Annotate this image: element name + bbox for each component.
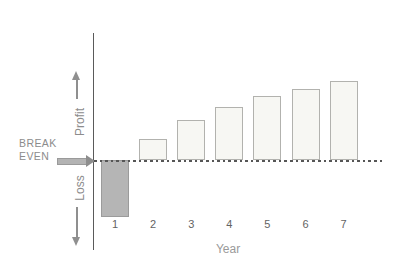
up-arrow-icon [72, 71, 80, 80]
profit-bar-year-3 [177, 120, 205, 160]
x-tick-label-6: 6 [292, 218, 320, 230]
break-even-dashed-line [94, 160, 385, 162]
break-even-chart: BREAK EVEN Profit Loss 1234567 Year [0, 0, 397, 274]
y-axis-line [93, 33, 94, 250]
profit-bar-year-7 [330, 81, 358, 160]
profit-bar-year-4 [215, 107, 243, 160]
loss-axis-label: Loss [73, 166, 87, 210]
x-tick-label-2: 2 [139, 218, 167, 230]
x-tick-label-3: 3 [177, 218, 205, 230]
x-tick-label-7: 7 [330, 218, 358, 230]
profit-axis-label: Profit [73, 100, 87, 144]
profit-bar-year-6 [292, 89, 320, 160]
x-axis-title: Year [206, 242, 250, 256]
x-tick-label-4: 4 [215, 218, 243, 230]
profit-bar-year-2 [139, 139, 167, 160]
x-tick-label-1: 1 [101, 218, 129, 230]
break-even-label-line1: BREAK [19, 137, 65, 150]
break-even-arrow-shaft [57, 158, 88, 165]
x-tick-label-5: 5 [253, 218, 281, 230]
profit-arrow-shaft [76, 80, 78, 99]
loss-arrow-shaft [76, 207, 78, 237]
down-arrow-icon [72, 237, 80, 246]
profit-bar-year-5 [253, 96, 281, 160]
loss-bar-year-1 [101, 160, 129, 217]
